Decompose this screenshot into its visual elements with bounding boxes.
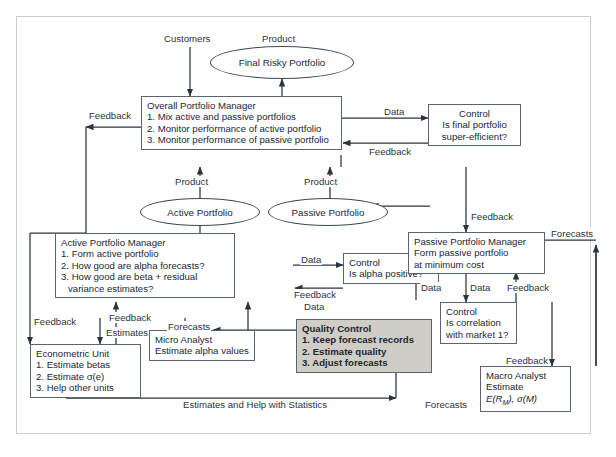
qc-line-3: 3. Adjust forecasts — [302, 357, 426, 368]
node-active-portfolio[interactable]: Active Portfolio — [140, 198, 260, 226]
opm-line-2: 2. Monitor performance of active portfol… — [147, 123, 336, 134]
node-quality-control[interactable]: Quality Control 1. Keep forecast records… — [296, 319, 432, 373]
apm-line-1: 1. Form active portfolio — [61, 248, 229, 259]
final-risky-portfolio-label: Final Risky Portfolio — [239, 57, 326, 68]
label-data-apm-control: Data — [300, 254, 322, 265]
node-econometric-unit[interactable]: Econometric Unit 1. Estimate betas 2. Es… — [30, 344, 141, 398]
label-product-active: Product — [174, 176, 209, 187]
label-estimates-help: Estimates and Help with Statistics — [182, 399, 328, 410]
macro-title: Macro Analyst — [486, 370, 565, 381]
label-forecasts-bottom: Forecasts — [424, 399, 468, 410]
opm-line-1: 1. Mix active and passive portfolios — [147, 111, 336, 122]
label-forecasts-right-top: Forecasts — [550, 228, 594, 239]
label-feedback-left-top: Feedback — [88, 110, 132, 121]
node-overall-portfolio-manager[interactable]: Overall Portfolio Manager 1. Mix active … — [141, 96, 342, 150]
node-passive-portfolio[interactable]: Passive Portfolio — [268, 198, 388, 226]
label-customers: Customers — [163, 33, 211, 44]
macro-line-2: E(RM), σ(M) — [486, 393, 565, 408]
active-portfolio-label: Active Portfolio — [167, 207, 232, 218]
label-forecasts-micro: Forecasts — [167, 321, 211, 332]
label-feedback-data-1: Feedback — [293, 289, 337, 300]
label-feedback-macro: Feedback — [505, 355, 549, 366]
qc-title: Quality Control — [302, 323, 426, 334]
label-feedback-data-2: Data — [303, 301, 325, 312]
ctrl-corr-line-2: Is correlation — [446, 317, 511, 328]
label-feedback-control-ppm: Feedback — [506, 282, 550, 293]
apm-line-2: 2. How good are alpha forecasts? — [61, 260, 229, 271]
macro-sigma: ), σ(M) — [508, 393, 537, 404]
apm-title: Active Portfolio Manager — [61, 237, 229, 248]
ppm-line-2: at minimum cost — [414, 259, 539, 270]
node-passive-portfolio-manager[interactable]: Passive Portfolio Manager Form passive p… — [408, 232, 545, 274]
qc-line-2: 2. Estimate quality — [302, 346, 426, 357]
diagram-canvas: Overall Portfolio Manager 1. Mix active … — [0, 0, 616, 457]
node-control-final-portfolio[interactable]: Control Is final portfolio super-efficie… — [428, 104, 521, 146]
ctrl-final-line-3: super-efficient? — [434, 131, 515, 142]
node-micro-analyst[interactable]: Micro Analyst Estimate alpha values — [149, 330, 255, 361]
econ-line-1: 1. Estimate betas — [36, 359, 135, 370]
apm-line-3: 3. How good are beta + residual — [61, 271, 229, 282]
label-feedback-mid-econ: Feedback — [108, 312, 152, 323]
ctrl-final-line-1: Control — [434, 108, 515, 119]
label-product-top: Product — [261, 33, 296, 44]
macro-er: E(R — [486, 393, 503, 404]
macro-line-1: Estimate — [486, 381, 565, 392]
node-control-correlation-market[interactable]: Control Is correlation with market 1? — [440, 302, 517, 344]
ctrl-corr-line-1: Control — [446, 306, 511, 317]
opm-title: Overall Portfolio Manager — [147, 100, 336, 111]
ppm-title: Passive Portfolio Manager — [414, 236, 539, 247]
label-feedback-right-ppm: Feedback — [470, 211, 514, 222]
label-estimates-mid: Estimates — [105, 327, 149, 338]
label-data-opm-control: Data — [383, 106, 405, 117]
label-feedback-left-econ: Feedback — [33, 316, 77, 327]
label-feedback-control-opm: Feedback — [368, 146, 412, 157]
label-data-left-ppm: Data — [420, 282, 442, 293]
ppm-line-1: Form passive portfolio — [414, 247, 539, 258]
ctrl-final-line-2: Is final portfolio — [434, 119, 515, 130]
node-active-portfolio-manager[interactable]: Active Portfolio Manager 1. Form active … — [55, 233, 235, 298]
econ-line-2: 2. Estimate σ(e) — [36, 371, 135, 382]
node-final-risky-portfolio[interactable]: Final Risky Portfolio — [210, 46, 354, 79]
ctrl-corr-line-3: with market 1? — [446, 329, 511, 340]
apm-line-4: variance estimates? — [61, 283, 229, 294]
micro-line-1: Estimate alpha values — [155, 345, 249, 356]
qc-line-1: 1. Keep forecast records — [302, 334, 426, 345]
passive-portfolio-label: Passive Portfolio — [292, 207, 365, 218]
micro-title: Micro Analyst — [155, 334, 249, 345]
label-data-ppm-control: Data — [469, 282, 491, 293]
node-macro-analyst[interactable]: Macro Analyst Estimate E(RM), σ(M) — [480, 366, 571, 412]
opm-line-3: 3. Monitor performance of passive portfo… — [147, 134, 336, 145]
econ-title: Econometric Unit — [36, 348, 135, 359]
label-product-passive: Product — [303, 176, 338, 187]
econ-line-3: 3. Help other units — [36, 382, 135, 393]
